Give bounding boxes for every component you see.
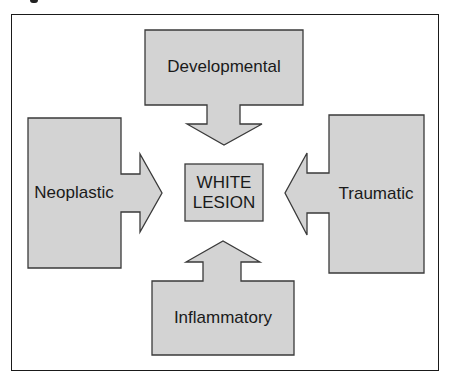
arrow-inflammatory-shape bbox=[152, 241, 294, 355]
center-label-line2: LESION bbox=[193, 193, 255, 213]
center-label: WHITE LESION bbox=[185, 164, 263, 221]
label-traumatic: Traumatic bbox=[339, 184, 414, 204]
label-inflammatory: Inflammatory bbox=[174, 308, 272, 328]
arrow-developmental-shape bbox=[145, 30, 303, 145]
label-developmental: Developmental bbox=[167, 57, 280, 77]
label-neoplastic: Neoplastic bbox=[34, 183, 113, 203]
center-label-line1: WHITE bbox=[197, 173, 252, 193]
